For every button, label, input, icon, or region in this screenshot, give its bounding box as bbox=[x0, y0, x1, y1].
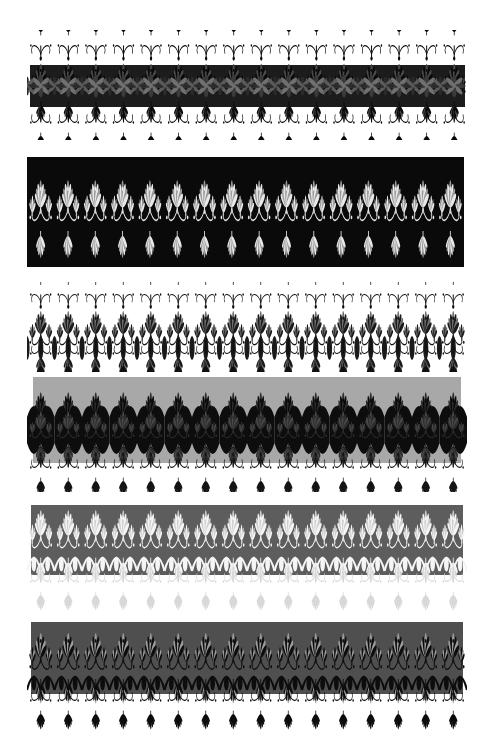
top-fringe-unit bbox=[85, 282, 106, 309]
bottom-fringe-unit bbox=[223, 107, 244, 140]
top-fringe-unit bbox=[168, 282, 189, 309]
top-fringe-unit bbox=[444, 30, 465, 61]
top-fringe-unit bbox=[333, 30, 354, 61]
bottom-fringe-unit bbox=[333, 107, 354, 140]
top-fringe-unit bbox=[333, 282, 354, 309]
top-fringe-unit bbox=[168, 30, 189, 61]
top-fringe-unit bbox=[223, 30, 244, 61]
top-fringe-unit bbox=[140, 282, 161, 309]
bottom-fringe-unit bbox=[168, 107, 189, 140]
bottom-fringe-unit bbox=[58, 107, 79, 140]
top-fringe-unit bbox=[58, 282, 79, 309]
ornament-band-2 bbox=[27, 157, 464, 267]
bottom-fringe-unit bbox=[251, 107, 272, 140]
top-fringe-unit bbox=[306, 30, 327, 61]
top-fringe-unit bbox=[278, 282, 299, 309]
top-fringe-unit bbox=[361, 30, 382, 61]
top-fringe-unit bbox=[278, 30, 299, 61]
top-fringe-unit bbox=[85, 30, 106, 61]
top-fringe-unit bbox=[30, 282, 51, 309]
ornament-band-5 bbox=[27, 505, 467, 617]
top-fringe-unit bbox=[415, 282, 436, 309]
top-fringe-unit bbox=[388, 282, 409, 309]
bottom-fringe-unit bbox=[113, 107, 134, 140]
bottom-fringe-unit bbox=[30, 107, 51, 140]
bottom-fringe-unit bbox=[196, 107, 217, 140]
ornament-sample-sheet bbox=[0, 0, 495, 753]
ornament-band-1 bbox=[27, 30, 468, 140]
ornament-band-4 bbox=[27, 377, 467, 492]
bottom-fringe-unit bbox=[388, 107, 409, 140]
top-fringe-unit bbox=[195, 282, 216, 309]
top-fringe-unit bbox=[113, 30, 134, 61]
top-fringe-unit bbox=[251, 30, 272, 61]
top-fringe-unit bbox=[443, 282, 464, 309]
ornament-band-3 bbox=[27, 282, 467, 372]
top-fringe-unit bbox=[388, 30, 409, 61]
bottom-fringe-unit bbox=[85, 107, 106, 140]
top-fringe-unit bbox=[196, 30, 217, 61]
bottom-fringe-unit bbox=[416, 107, 437, 140]
top-fringe-unit bbox=[416, 30, 437, 61]
top-fringe-unit bbox=[140, 30, 161, 61]
top-fringe-unit bbox=[113, 282, 134, 309]
top-fringe-unit bbox=[58, 30, 79, 61]
bottom-fringe-unit bbox=[140, 107, 161, 140]
top-fringe-unit bbox=[360, 282, 381, 309]
bottom-fringe-unit bbox=[306, 107, 327, 140]
top-fringe-unit bbox=[223, 282, 244, 309]
bottom-fringe-unit bbox=[444, 107, 465, 140]
ornament-band-6 bbox=[27, 622, 467, 734]
top-fringe-unit bbox=[305, 282, 326, 309]
top-fringe-unit bbox=[250, 282, 271, 309]
top-fringe-unit bbox=[30, 30, 51, 61]
bottom-fringe-unit bbox=[278, 107, 299, 140]
bottom-fringe-unit bbox=[361, 107, 382, 140]
